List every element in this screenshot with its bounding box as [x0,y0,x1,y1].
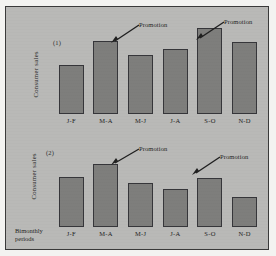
x-tick-label: N-D [238,230,250,237]
promotion-annotation-label: Promotion [224,18,252,25]
x-tick-label: S-O [204,230,215,237]
x-tick-label: S-O [204,117,215,124]
chart-panel-2: (2) Consumer sales Bimonthly periods J-F… [6,131,270,251]
bar [197,28,222,114]
promotion-arrow-icon [196,22,226,40]
x-tick-label: M-J [135,230,146,237]
bar-slot: M-A [93,131,119,227]
bar [93,41,118,114]
bar [232,197,257,227]
promotion-arrow-icon [192,157,222,175]
panel-2-x-axis-title: Bimonthly periods [15,227,57,243]
bar [197,178,222,227]
bar [163,189,188,227]
bar-slot: M-A [93,7,119,114]
x-tick-label: N-D [238,117,250,124]
promotion-annotation-label: Promotion [220,153,248,160]
promotion-annotation-label: Promotion [139,21,167,28]
panel-2-y-axis-label: Consumer sales [30,153,37,200]
figure-frame: (1) Consumer sales J-F M-A M-J J-A [5,6,269,250]
promotion-arrow-icon [111,149,141,165]
x-tick-label: J-A [170,230,180,237]
x-tick-label: M-J [135,117,146,124]
x-tick-label: J-F [67,117,76,124]
x-tick-label: M-A [99,230,113,237]
chart-panel-1: (1) Consumer sales J-F M-A M-J J-A [6,7,270,131]
bar-slot: J-F [58,131,84,227]
panel-2-tag: (2) [46,149,54,156]
figure-caption-cutoff [0,0,276,4]
promotion-annotation-label: Promotion [139,145,167,152]
bar [93,164,118,227]
promotion-arrow-icon [111,25,141,43]
bar-slot: S-O [197,131,223,227]
scanned-page: (1) Consumer sales J-F M-A M-J J-A [0,0,276,256]
x-tick-label: M-A [99,117,113,124]
bar [163,49,188,114]
x-tick-label: J-F [67,230,76,237]
bar [59,65,84,114]
bar-slot: N-D [232,131,258,227]
panel-1-y-axis-label: Consumer sales [32,51,39,98]
bar-slot: J-F [58,7,84,114]
x-tick-label: J-A [170,117,180,124]
bar [128,183,153,227]
bar [232,42,257,114]
bar [59,177,84,227]
bar [128,55,153,114]
